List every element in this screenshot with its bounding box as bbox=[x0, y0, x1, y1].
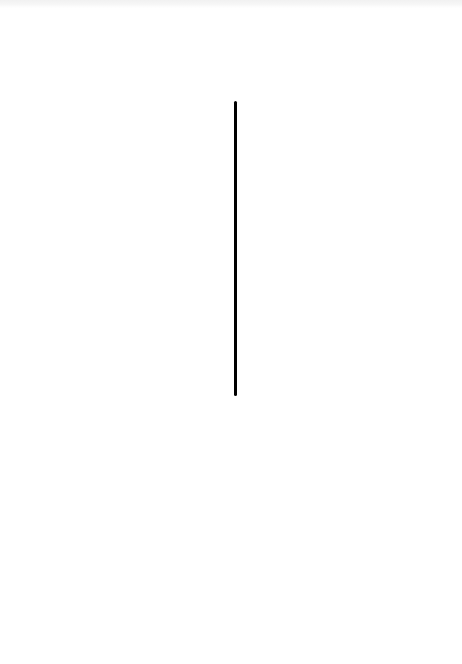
blurred-header-strip bbox=[0, 0, 462, 8]
vertical-line-stroke bbox=[234, 101, 237, 396]
drawing-canvas[interactable] bbox=[0, 8, 462, 664]
